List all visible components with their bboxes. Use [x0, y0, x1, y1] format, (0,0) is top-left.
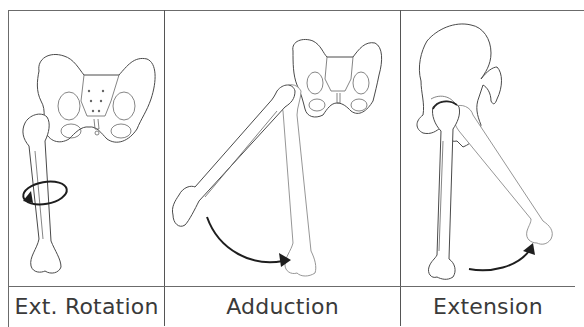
panel-adduction — [165, 11, 400, 286]
panel-extension — [401, 11, 575, 286]
pelvis-icon — [293, 39, 382, 117]
curved-arrow-icon — [207, 217, 291, 267]
pelvis-femur-adduction-illustration — [165, 11, 400, 286]
label-ext-rotation: Ext. Rotation — [9, 287, 164, 326]
panel-ext-rotation — [9, 11, 164, 286]
label-adduction: Adduction — [165, 287, 400, 326]
pelvis-femur-extension-illustration — [401, 11, 575, 286]
pelvis-femur-rotation-illustration — [9, 11, 164, 286]
pelvis-icon — [37, 54, 155, 142]
curved-arrow-icon — [469, 243, 535, 270]
femur-extended-icon — [453, 105, 552, 244]
femur-adducted-icon — [172, 85, 295, 226]
label-extension: Extension — [401, 287, 575, 326]
